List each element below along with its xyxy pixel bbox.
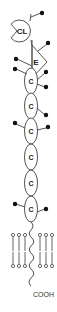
transmembrane-tail — [29, 222, 34, 286]
cooh-terminus-label: COOH — [33, 291, 54, 298]
glycan-dot-icon — [44, 113, 48, 117]
glycan-dot-icon — [40, 11, 44, 15]
cl-domain: CL — [11, 11, 44, 42]
glycan-dot-icon — [44, 85, 48, 89]
c-label: C — [28, 206, 33, 213]
glycan-dot-icon — [13, 121, 17, 125]
glycan-dot-icon — [13, 202, 17, 206]
glycan-dot-icon — [44, 207, 48, 211]
c-label: C — [28, 180, 33, 187]
glycan-dot-icon — [44, 70, 48, 74]
c-label: C — [28, 154, 33, 161]
glycan-dot-icon — [13, 67, 17, 71]
protein-domain-diagram: CL E C C C — [0, 0, 57, 312]
c-label: C — [28, 103, 33, 110]
cl-label: CL — [17, 27, 28, 36]
c-label: C — [28, 78, 33, 85]
e-label: E — [33, 58, 39, 67]
c-domain-chain: C C C C C C — [13, 67, 50, 222]
glycan-dot-icon — [14, 57, 18, 61]
glycan-dot-icon — [46, 41, 50, 45]
c-label: C — [28, 128, 33, 135]
glycan-dot-icon — [46, 125, 50, 129]
